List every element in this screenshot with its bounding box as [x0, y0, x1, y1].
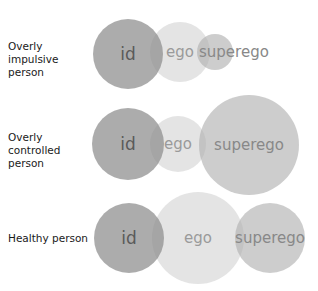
- ego-circle-healthy: ego: [152, 192, 244, 284]
- ego-text: ego: [166, 43, 194, 61]
- row-label-impulsive: Overly impulsive person: [8, 40, 93, 79]
- superego-circle-controlled: superego: [199, 95, 299, 195]
- superego-text-impulsive: superego: [199, 43, 269, 61]
- superego-text: superego: [214, 136, 284, 154]
- label-line: person: [8, 66, 93, 79]
- id-circle-impulsive: id: [93, 19, 163, 89]
- ego-text: ego: [164, 135, 192, 153]
- label-line: Overly impulsive: [8, 40, 93, 66]
- superego-circle-healthy: superego: [235, 203, 305, 273]
- id-circle-healthy: id: [94, 203, 164, 273]
- ego-text: ego: [184, 229, 212, 247]
- superego-text: superego: [235, 229, 305, 247]
- id-text: id: [120, 44, 136, 64]
- row-label-controlled: Overly controlled person: [8, 131, 93, 170]
- row-label-healthy: Healthy person: [8, 232, 93, 245]
- label-line: Overly controlled: [8, 131, 93, 157]
- id-text: id: [120, 134, 136, 154]
- id-text: id: [121, 228, 137, 248]
- label-line: person: [8, 157, 93, 170]
- label-line: Healthy person: [8, 232, 93, 245]
- id-circle-controlled: id: [92, 108, 164, 180]
